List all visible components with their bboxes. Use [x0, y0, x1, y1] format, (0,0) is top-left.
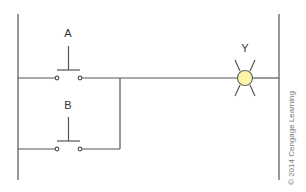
contact-a-label: A [64, 27, 71, 39]
contact-b-label: B [64, 99, 71, 111]
lamp-y-icon [235, 60, 255, 96]
copyright-notice: © 2014 Cengage Learning [287, 91, 296, 185]
output-y-label: Y [241, 42, 248, 54]
contact-a-pushbutton [55, 46, 82, 80]
ladder-diagram [0, 0, 306, 192]
contact-b-pushbutton [55, 117, 82, 151]
